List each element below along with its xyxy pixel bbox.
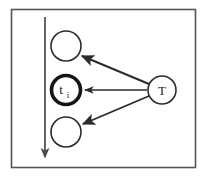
node-ti-label: t: [59, 82, 63, 97]
node-top-circle: [51, 31, 81, 61]
edge-T-to-bottom-node: [83, 96, 149, 124]
node-T-label: T: [158, 83, 166, 98]
node-bottom-circle: [51, 117, 81, 147]
edge-T-to-top-node: [82, 56, 149, 84]
figure-canvas: t i T: [0, 0, 206, 178]
diagram-svg: t i T: [0, 0, 206, 178]
